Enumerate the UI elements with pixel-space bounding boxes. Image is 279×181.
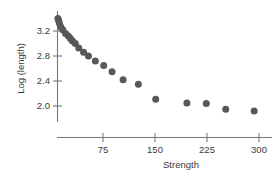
y-tick-label: 2.0 <box>37 100 50 111</box>
data-point <box>109 68 116 75</box>
y-axis-title: Log (length) <box>15 43 26 94</box>
data-point-group <box>54 15 257 115</box>
y-tick-label: 2.8 <box>37 50 50 61</box>
data-point <box>120 76 127 83</box>
data-point <box>135 81 142 88</box>
y-tick-label: 3.2 <box>37 25 50 36</box>
data-point <box>183 99 190 106</box>
data-point <box>203 100 210 107</box>
chart-canvas: 2.02.42.83.275150225300StrengthLog (leng… <box>0 0 279 181</box>
x-tick-label: 225 <box>199 144 215 155</box>
data-point <box>100 62 107 69</box>
data-point <box>85 53 92 60</box>
y-tick-label: 2.4 <box>37 75 50 86</box>
data-point <box>251 108 258 115</box>
scatter-chart: 2.02.42.83.275150225300StrengthLog (leng… <box>0 0 279 181</box>
x-tick-label: 75 <box>98 144 109 155</box>
x-tick-label: 150 <box>147 144 163 155</box>
data-point <box>222 106 229 113</box>
data-point <box>152 96 159 103</box>
x-tick-label: 300 <box>251 144 267 155</box>
data-point <box>92 58 99 65</box>
x-axis-title: Strength <box>163 159 199 170</box>
